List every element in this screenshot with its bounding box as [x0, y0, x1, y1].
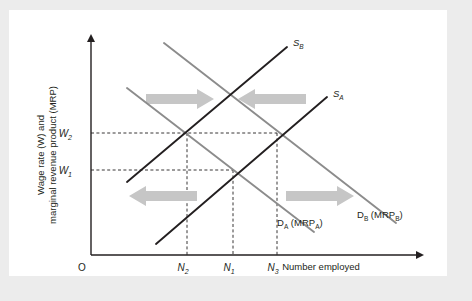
curve-supply-b	[127, 47, 287, 182]
y-tick-w1-sub: 1	[68, 171, 72, 178]
curve-label-demand-a-open: (MRP	[288, 217, 315, 228]
curve-label-demand-a: DA (MRPA)	[277, 217, 323, 230]
curves-group	[127, 43, 396, 244]
curve-demand-a	[127, 88, 314, 232]
y-axis-title: Wage rate (W) and marginal revenue produ…	[35, 86, 58, 224]
x-tick-labels-group: N2 N1 N3	[177, 262, 278, 275]
x-tick-n3-sub: 3	[275, 268, 279, 275]
svg-text:marginal revenue product (MRP): marginal revenue product (MRP)	[47, 86, 58, 224]
x-tick-n1: N1	[223, 262, 234, 275]
plot-canvas: Wage rate (W) and marginal revenue produ…	[9, 10, 447, 276]
curve-label-demand-b: DB (MRPB)	[357, 209, 403, 222]
x-tick-n3: N3	[267, 262, 278, 275]
x-tick-n2-sub: 2	[184, 268, 189, 275]
figure-frame: Wage rate (W) and marginal revenue produ…	[0, 0, 472, 301]
curve-label-supply-a: SA	[333, 88, 344, 101]
curve-label-demand-b-open: (MRP	[368, 209, 395, 220]
axis-group	[91, 41, 417, 255]
curve-label-demand-b-close: )	[399, 209, 402, 220]
x-tick-n1-sub: 1	[231, 268, 235, 275]
shift-arrows-group	[129, 89, 354, 206]
arrow-top-right-left-icon	[238, 89, 306, 109]
y-tick-w2: W2	[59, 128, 72, 141]
svg-text:Wage rate (W) and: Wage rate (W) and	[35, 115, 46, 195]
curve-label-demand-a-close: )	[319, 217, 322, 228]
origin-label: O	[78, 262, 86, 273]
y-axis-title-line2: marginal revenue product (MRP)	[47, 86, 58, 224]
x-tick-n2: N2	[177, 262, 188, 275]
y-tick-labels-group: W2 W1	[59, 128, 72, 178]
y-tick-w1: W1	[59, 165, 72, 178]
curve-label-supply-b: SB	[293, 37, 304, 50]
curve-label-supply-a-sub: A	[338, 94, 343, 101]
economics-labour-market-chart: Wage rate (W) and marginal revenue produ…	[9, 10, 447, 276]
arrow-bottom-right-right-icon	[286, 186, 354, 206]
x-axis-title: Number employed	[282, 261, 360, 272]
curve-demand-b	[164, 43, 396, 223]
curve-label-supply-b-sub: B	[299, 43, 304, 50]
y-tick-w2-sub: 2	[67, 134, 72, 141]
arrow-top-left-right-icon	[146, 89, 214, 109]
y-axis-title-line1: Wage rate (W) and	[35, 115, 46, 195]
